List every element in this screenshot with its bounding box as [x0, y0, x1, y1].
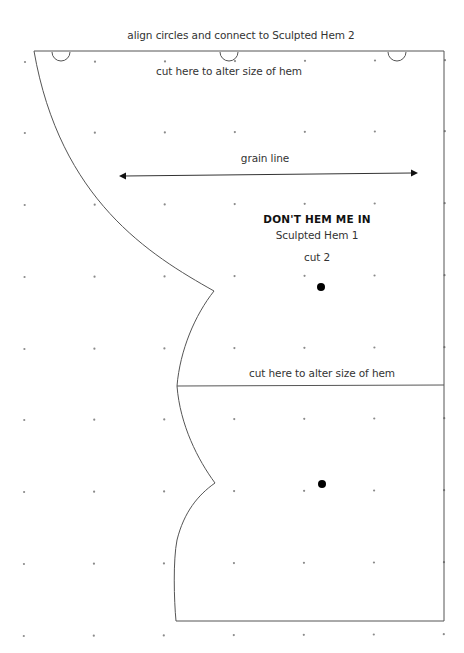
grid-dot: [163, 418, 165, 420]
grid-dot: [163, 490, 165, 492]
grid-dot: [373, 489, 375, 491]
grid-dot: [233, 418, 235, 420]
grid-dot: [93, 635, 95, 637]
grid-dot: [303, 275, 305, 277]
grid-dot: [163, 275, 165, 277]
grid-dot: [374, 130, 376, 132]
grid-dot: [93, 491, 95, 493]
pattern-outline: [34, 51, 444, 621]
grid-dot: [304, 60, 306, 62]
grid-dot: [234, 60, 236, 62]
align-circle-3: [388, 52, 406, 61]
grid-dot: [233, 275, 235, 277]
pattern-canvas: [0, 0, 464, 653]
grain-line-label: grain line: [241, 152, 289, 164]
grid-dot: [93, 348, 95, 350]
grid-dot: [93, 419, 95, 421]
grid-dot: [233, 347, 235, 349]
grid-dot: [373, 274, 375, 276]
grid-dot: [373, 561, 375, 563]
grid-dot: [23, 563, 25, 565]
align-circle-2: [220, 52, 238, 61]
grid-dot: [233, 490, 235, 492]
grain-arrow-left-icon: [119, 173, 126, 180]
align-circle-1: [52, 52, 70, 61]
grid-dot: [23, 635, 25, 637]
dot-grid: [23, 59, 446, 637]
grid-dot: [303, 490, 305, 492]
grid-dot: [233, 634, 235, 636]
grid-dot: [93, 276, 95, 278]
grid-dot: [373, 633, 375, 635]
grid-dot: [373, 346, 375, 348]
grid-dot: [164, 60, 166, 62]
pattern-subtitle: Sculpted Hem 1: [276, 229, 358, 241]
grid-dot: [23, 491, 25, 493]
grid-dot: [93, 563, 95, 565]
grid-dot: [373, 417, 375, 419]
grid-dot: [304, 131, 306, 133]
grid-dot: [163, 634, 165, 636]
grid-dot: [303, 418, 305, 420]
placement-dot-1: [317, 283, 325, 291]
grid-dot: [443, 633, 445, 635]
grid-dot: [374, 202, 376, 204]
grid-dot: [94, 61, 96, 63]
grid-dot: [234, 203, 236, 205]
grid-dot: [23, 276, 25, 278]
grid-dot: [94, 204, 96, 206]
grid-dot: [163, 347, 165, 349]
grid-dot: [23, 419, 25, 421]
pattern-title: DON'T HEM ME IN: [263, 213, 371, 225]
grain-arrow-right-icon: [411, 170, 418, 177]
grid-dot: [303, 562, 305, 564]
cut-line-middle-label: cut here to alter size of hem: [249, 367, 395, 379]
grain-line: [124, 173, 412, 176]
grid-dot: [303, 347, 305, 349]
grid-dot: [163, 562, 165, 564]
cut-line-top-label: cut here to alter size of hem: [156, 65, 302, 77]
grid-dot: [94, 132, 96, 134]
grid-dot: [303, 634, 305, 636]
grid-dot: [24, 132, 26, 134]
cut-count: cut 2: [304, 251, 330, 263]
grid-dot: [24, 204, 26, 206]
top-instruction: align circles and connect to Sculpted He…: [127, 29, 354, 41]
grid-dot: [233, 562, 235, 564]
grid-dot: [23, 348, 25, 350]
grid-dot: [374, 59, 376, 61]
grid-dot: [304, 203, 306, 205]
grid-dot: [164, 203, 166, 205]
grid-dot: [164, 131, 166, 133]
cut-line: [177, 385, 444, 386]
grid-dot: [24, 61, 26, 63]
grid-dot: [234, 131, 236, 133]
placement-dot-2: [318, 480, 326, 488]
